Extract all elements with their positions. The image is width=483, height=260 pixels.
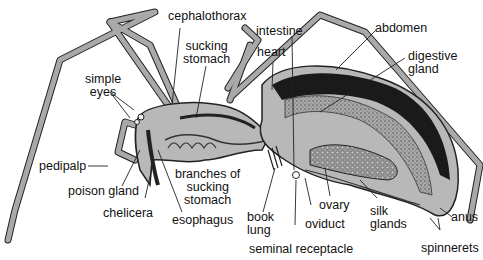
label-cephalothorax: cephalothorax xyxy=(168,10,247,23)
label-chelicera: chelicera xyxy=(103,207,153,220)
label-anus: anus xyxy=(451,211,478,224)
label-sucking-stomach: sucking stomach xyxy=(183,40,230,66)
label-poison-gland: poison gland xyxy=(68,185,139,198)
label-book-lung: book lung xyxy=(247,211,274,237)
spider-anatomy-diagram: cephalothorax sucking stomach simple eye… xyxy=(0,0,483,260)
label-seminal-receptacle: seminal receptacle xyxy=(249,243,353,256)
label-branches-of-sucking-stomach: branches of sucking stomach xyxy=(175,168,240,207)
label-silk-glands: silk glands xyxy=(370,205,407,231)
label-oviduct: oviduct xyxy=(305,218,345,231)
label-heart: heart xyxy=(257,46,286,59)
label-ovary: ovary xyxy=(319,199,350,212)
label-simple-eyes: simple eyes xyxy=(85,73,121,99)
label-pedipalp: pedipalp xyxy=(39,160,86,173)
label-intestine: intestine xyxy=(256,25,303,38)
label-esophagus: esophagus xyxy=(172,214,233,227)
label-spinnerets: spinnerets xyxy=(421,242,479,255)
label-digestive-gland: digestive gland xyxy=(408,50,457,76)
label-abdomen: abdomen xyxy=(375,22,427,35)
